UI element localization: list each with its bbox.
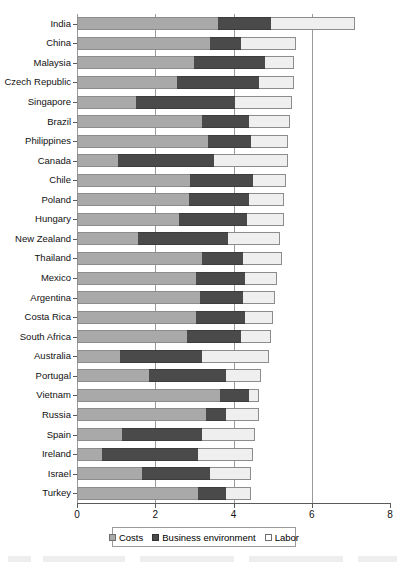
- y-axis-label-chile: Chile: [0, 175, 71, 185]
- y-axis-label-india: India: [0, 19, 71, 29]
- bar-row: Vietnam: [77, 386, 390, 406]
- legend-label-business-environment: Business environment: [162, 532, 255, 543]
- stacked-bar: [77, 193, 284, 206]
- bar-row: India: [77, 14, 390, 34]
- bar-segment-costs: [77, 330, 187, 343]
- stacked-bar: [77, 448, 253, 461]
- bar-segment-labor: [265, 56, 294, 69]
- stacked-bar: [77, 467, 251, 480]
- y-axis-label-singapore: Singapore: [0, 97, 71, 107]
- bar-segment-business-environment: [196, 311, 245, 324]
- bar-segment-business-environment: [190, 174, 253, 187]
- bar-segment-business-environment: [196, 272, 245, 285]
- bar-segment-business-environment: [142, 467, 210, 480]
- bar-row: Argentina: [77, 288, 390, 308]
- bar-segment-business-environment: [122, 428, 202, 441]
- bar-segment-labor: [241, 330, 270, 343]
- legend-item-business-environment: Business environment: [152, 532, 255, 543]
- bar-segment-costs: [77, 135, 208, 148]
- bar-row: China: [77, 34, 390, 54]
- bar-segment-business-environment: [202, 115, 249, 128]
- bar-row: Canada: [77, 151, 390, 171]
- bar-row: Australia: [77, 347, 390, 367]
- bar-segment-costs: [77, 389, 220, 402]
- legend-swatch-costs-icon: [109, 534, 116, 541]
- stacked-bar: [77, 252, 282, 265]
- stacked-bar: [77, 174, 286, 187]
- x-axis-label-0: 0: [74, 509, 80, 520]
- chart-legend: Costs Business environment Labor: [112, 527, 296, 547]
- bar-segment-costs: [77, 17, 218, 30]
- y-axis-label-portugal: Portugal: [0, 371, 71, 381]
- bar-segment-costs: [77, 56, 194, 69]
- stacked-bar: [77, 154, 288, 167]
- bar-segment-business-environment: [208, 135, 251, 148]
- bar-segment-business-environment: [189, 193, 250, 206]
- stacked-bar: [77, 389, 259, 402]
- bar-segment-costs: [77, 291, 200, 304]
- bar-segment-business-environment: [198, 487, 225, 500]
- bar-segment-business-environment: [118, 154, 214, 167]
- bar-segment-labor: [226, 408, 259, 421]
- legend-label-labor: Labor: [275, 532, 299, 543]
- y-axis-label-poland: Poland: [0, 195, 71, 205]
- bar-segment-costs: [77, 232, 138, 245]
- bar-row: Philippines: [77, 131, 390, 151]
- x-axis-tick-4: [234, 503, 235, 508]
- bar-segment-labor: [249, 115, 290, 128]
- bar-segment-labor: [249, 389, 259, 402]
- bar-segment-labor: [235, 96, 292, 109]
- y-axis-label-brazil: Brazil: [0, 117, 71, 127]
- y-axis-label-vietnam: Vietnam: [0, 390, 71, 400]
- y-axis-label-philippines: Philippines: [0, 136, 71, 146]
- bar-row: Mexico: [77, 268, 390, 288]
- bar-segment-business-environment: [202, 252, 243, 265]
- bar-segment-labor: [247, 213, 284, 226]
- bar-row: Ireland: [77, 444, 390, 464]
- bar-segment-costs: [77, 115, 202, 128]
- bar-row: Israel: [77, 464, 390, 484]
- bar-segment-costs: [77, 272, 196, 285]
- bar-segment-costs: [77, 252, 202, 265]
- bar-segment-business-environment: [220, 389, 249, 402]
- bar-segment-labor: [198, 448, 253, 461]
- legend-item-labor: Labor: [265, 532, 299, 543]
- bar-segment-labor: [271, 17, 355, 30]
- bar-row: Turkey: [77, 483, 390, 503]
- y-axis-label-china: China: [0, 38, 71, 48]
- legend-swatch-labor-icon: [265, 534, 272, 541]
- bar-segment-labor: [202, 350, 269, 363]
- stacked-bar: [77, 369, 261, 382]
- bar-segment-business-environment: [194, 56, 264, 69]
- stacked-bar: [77, 232, 280, 245]
- bar-segment-business-environment: [138, 232, 228, 245]
- x-axis-tick-0: [77, 503, 78, 508]
- bar-segment-costs: [77, 213, 179, 226]
- bar-segment-labor: [249, 193, 284, 206]
- bar-segment-labor: [228, 232, 281, 245]
- legend-item-costs: Costs: [109, 532, 143, 543]
- y-axis-label-turkey: Turkey: [0, 488, 71, 498]
- x-axis-label-4: 4: [231, 509, 237, 520]
- bar-row: Costa Rica: [77, 307, 390, 327]
- x-axis-tick-6: [312, 503, 313, 508]
- stacked-bar: [77, 96, 292, 109]
- bar-row: Hungary: [77, 210, 390, 230]
- bar-segment-costs: [77, 487, 198, 500]
- bar-segment-labor: [214, 154, 288, 167]
- y-axis-label-australia: Australia: [0, 351, 71, 361]
- bar-segment-labor: [226, 487, 251, 500]
- stacked-bar: [77, 37, 296, 50]
- x-axis-label-2: 2: [152, 509, 158, 520]
- y-axis-label-mexico: Mexico: [0, 273, 71, 283]
- stacked-bar: [77, 330, 271, 343]
- bar-segment-labor: [253, 174, 286, 187]
- bar-row: South Africa: [77, 327, 390, 347]
- cutoff-caption: [8, 556, 397, 562]
- bar-segment-labor: [226, 369, 261, 382]
- bar-segment-costs: [77, 311, 196, 324]
- y-axis-label-new-zealand: New Zealand: [0, 234, 71, 244]
- legend-swatch-business-environment-icon: [152, 534, 159, 541]
- bar-segment-labor: [259, 76, 294, 89]
- y-axis-label-spain: Spain: [0, 430, 71, 440]
